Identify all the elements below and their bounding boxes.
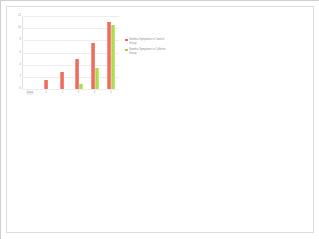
chart-page: 024681012 Dose12345 Gambia Symptoms in C… xyxy=(0,0,171,104)
x-axis-tick-label: 2 xyxy=(62,92,63,95)
bar-control xyxy=(44,80,48,89)
x-axis-tick-label: 3 xyxy=(78,92,79,95)
bar-group xyxy=(22,16,38,89)
y-axis-tick-label: 8 xyxy=(20,39,21,42)
x-axis-tick-label: 5 xyxy=(110,92,111,95)
y-axis-tick-label: 12 xyxy=(18,15,21,18)
legend-label: Gambia Symptoms in Caffeine Group xyxy=(129,48,171,55)
bar-caffeine xyxy=(79,84,83,89)
bar-group xyxy=(87,16,103,89)
x-axis-tick-label: 4 xyxy=(94,92,95,95)
chart-legend: Gambia Symptoms in Control GroupGambia S… xyxy=(125,38,171,59)
legend-swatch-icon xyxy=(125,39,128,42)
bar-group xyxy=(103,16,119,89)
bar-caffeine xyxy=(95,68,99,89)
legend-item[interactable]: Gambia Symptoms in Control Group xyxy=(125,38,171,45)
chart-frame: 024681012 Dose12345 Gambia Symptoms in C… xyxy=(6,6,171,104)
bar-group xyxy=(38,16,54,89)
legend-item[interactable]: Gambia Symptoms in Caffeine Group xyxy=(125,48,171,55)
gridline xyxy=(22,89,119,90)
bar-group xyxy=(71,16,87,89)
y-axis-tick-label: 6 xyxy=(20,51,21,54)
x-axis-tick-label: Dose xyxy=(26,92,34,95)
y-axis-tick-label: 4 xyxy=(20,63,21,66)
x-axis-tick-label: 1 xyxy=(46,92,47,95)
y-axis-tick-label: 0 xyxy=(20,88,21,91)
legend-swatch-icon xyxy=(125,49,128,52)
bar-group xyxy=(54,16,70,89)
legend-label: Gambia Symptoms in Control Group xyxy=(129,38,171,45)
bar-control xyxy=(60,72,64,89)
y-axis-tick-label: 2 xyxy=(20,76,21,79)
plot-area: 024681012 Dose12345 xyxy=(22,16,119,90)
y-axis-tick-label: 10 xyxy=(18,27,21,30)
bar-caffeine xyxy=(111,25,115,89)
